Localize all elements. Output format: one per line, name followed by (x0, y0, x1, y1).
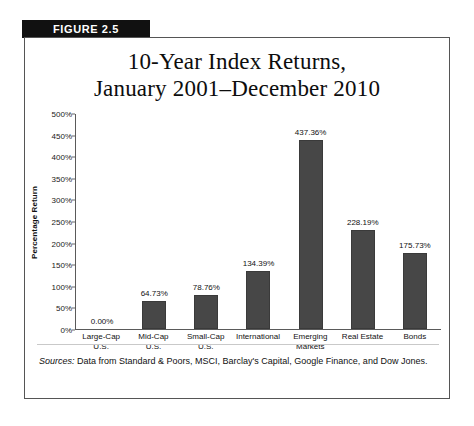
bar-value-label: 0.00% (91, 317, 114, 326)
sources-note: Sources: Data from Standard & Poors, MSC… (39, 354, 437, 369)
bar-value-label: 78.76% (193, 283, 220, 292)
bar-value-label: 437.36% (295, 128, 327, 137)
sources-separator (37, 344, 439, 345)
bar-group: 134.39% (235, 114, 281, 329)
y-axis-tick-label: 200% (36, 239, 72, 248)
chart-title: 10-Year Index Returns, January 2001–Dece… (25, 48, 449, 102)
y-axis-tick-label: 350% (36, 174, 72, 183)
bar-group: 78.76% (183, 114, 229, 329)
x-axis-category-label: Real Estate (337, 332, 389, 352)
figure-number-label: FIGURE 2.5 (53, 23, 119, 35)
x-axis-labels: Large-CapU.S.Mid-CapU.S.Small-CapU.S.Int… (75, 332, 441, 352)
chart-title-line-2: January 2001–December 2010 (25, 75, 449, 102)
x-axis-category-line-1: International (236, 332, 280, 341)
bar-value-label: 64.73% (141, 289, 168, 298)
x-axis-category-line-1: Bonds (403, 332, 426, 341)
bar-value-label: 134.39% (243, 259, 275, 268)
y-axis-tick-label: 250% (36, 218, 72, 227)
x-axis-category-label: EmergingMarkets (284, 332, 336, 352)
x-axis-category-line-1: Mid-Cap (138, 332, 168, 341)
x-axis-category-line-1: Small-Cap (187, 332, 224, 341)
bar-group: 437.36% (288, 114, 334, 329)
y-axis-tick-label: 400% (36, 153, 72, 162)
plot-area: Percentage Return 0%50%100%150%200%250%3… (25, 114, 451, 346)
x-axis-category-label: Mid-CapU.S. (127, 332, 179, 352)
y-axis-tick-label: 150% (36, 261, 72, 270)
bar-group: 175.73% (392, 114, 438, 329)
bars-layer: 0.00%64.73%78.76%134.39%437.36%228.19%17… (76, 114, 441, 329)
x-axis-category-line-1: Large-Cap (82, 332, 120, 341)
sources-label: Sources: (39, 356, 75, 366)
bar (246, 271, 270, 329)
bar (194, 295, 218, 329)
bar-group: 64.73% (131, 114, 177, 329)
y-axis-tick-label: 100% (36, 282, 72, 291)
x-axis-category-label: Bonds (389, 332, 441, 352)
bar-value-label: 228.19% (347, 218, 379, 227)
y-axis-tick-label: 0% (36, 326, 72, 335)
y-axis-tick-label: 450% (36, 131, 72, 140)
x-axis-category-label: Large-CapU.S. (75, 332, 127, 352)
figure-number-banner: FIGURE 2.5 (22, 20, 150, 38)
sources-text: Data from Standard & Poors, MSCI, Barcla… (75, 356, 428, 366)
x-axis-category-label: Small-CapU.S. (180, 332, 232, 352)
bar-group: 228.19% (340, 114, 386, 329)
bar-group: 0.00% (79, 114, 125, 329)
chart-title-line-1: 10-Year Index Returns, (25, 48, 449, 75)
y-axis-tick-label: 500% (36, 110, 72, 119)
plot-frame: 0.00%64.73%78.76%134.39%437.36%228.19%17… (75, 114, 441, 330)
y-axis-tick-label: 50% (36, 304, 72, 313)
figure-container: FIGURE 2.5 10-Year Index Returns, Januar… (24, 20, 452, 400)
bar (403, 253, 427, 329)
x-axis-category-line-1: Real Estate (342, 332, 383, 341)
bar (351, 230, 375, 329)
x-axis-category-line-1: Emerging (293, 332, 327, 341)
y-axis-tick-label: 300% (36, 196, 72, 205)
figure-frame: 10-Year Index Returns, January 2001–Dece… (24, 37, 450, 399)
x-axis-category-label: International (232, 332, 284, 352)
bar-value-label: 175.73% (399, 241, 431, 250)
bar (142, 301, 166, 329)
y-axis-ticks: 0%50%100%150%200%250%300%350%400%450%500… (39, 114, 75, 330)
bar (299, 140, 323, 329)
